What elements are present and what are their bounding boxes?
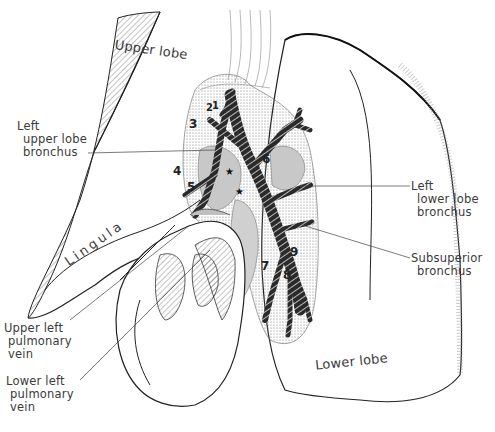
label-left-lower-lobe-bronchus: Left lower lobe bronchus: [411, 180, 479, 219]
heart-vein-region: [116, 209, 245, 406]
segment-5: 5: [187, 180, 195, 194]
label-lower-left-pulmonary-vein: Lower left pulmonary vein: [6, 375, 74, 414]
segment-2: 2: [206, 102, 213, 113]
anatomical-diagram: ★ ★ Upper lobe Lingula Lower lobe Left u…: [0, 0, 495, 432]
label-left-upper-lobe-bronchus: Left upper lobe bronchus: [17, 120, 87, 159]
segment-4: 4: [173, 164, 181, 178]
svg-text:★: ★: [225, 166, 234, 177]
segment-1: 1: [212, 100, 219, 111]
segment-7: 7: [261, 259, 269, 273]
segment-6: 6: [262, 152, 270, 166]
label-upper-left-pulmonary-vein: Upper left pulmonary vein: [4, 322, 72, 361]
segment-3: 3: [189, 117, 197, 131]
label-line: vein: [6, 401, 74, 414]
segment-9: 9: [290, 245, 298, 259]
label-line: bronchus: [411, 265, 482, 278]
label-line: bronchus: [411, 206, 479, 219]
label-subsuperior-bronchus: Subsuperior bronchus: [411, 252, 482, 278]
label-line: bronchus: [17, 146, 87, 159]
label-line: vein: [4, 348, 72, 361]
segment-8: 8: [283, 268, 291, 282]
svg-text:★: ★: [235, 186, 244, 197]
